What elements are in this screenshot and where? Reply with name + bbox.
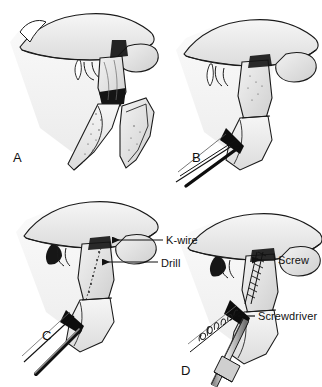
figure-odontoid-screw-fixation: A B C D K-wire Drill Screw Screwdriver (0, 0, 322, 387)
panel-letter-a: A (13, 151, 22, 164)
panel-letter-c: C (42, 329, 52, 342)
callout-label-drill: Drill (161, 258, 180, 269)
panel-letter-b: B (192, 151, 201, 164)
callout-label-screwdriver: Screwdriver (258, 311, 317, 322)
callout-label-screw: Screw (278, 255, 309, 266)
callout-label-kwire: K-wire (166, 235, 198, 246)
panel-letter-d: D (181, 364, 191, 377)
